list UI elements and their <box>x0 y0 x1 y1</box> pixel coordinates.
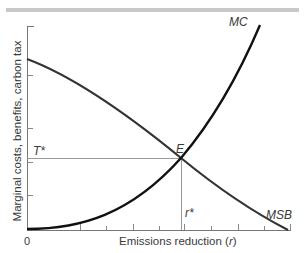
mc-label: MC <box>229 15 248 29</box>
x-ticks <box>81 224 291 230</box>
t-star-label: T* <box>33 144 45 158</box>
x-axis-title-close: ) <box>233 235 237 247</box>
msb-curve <box>27 59 288 230</box>
y-axis-title: Marginal costs, benefits, carbon tax <box>11 40 23 221</box>
x-axis-title: Emissions reduction (r) <box>119 235 237 247</box>
equilibrium-label: E <box>176 142 185 156</box>
origin-label: 0 <box>24 235 30 247</box>
x-axis-title-text: Emissions reduction ( <box>119 235 229 247</box>
mc-curve <box>27 25 260 229</box>
r-star-label: r* <box>185 206 194 220</box>
msb-label: MSB <box>266 208 292 222</box>
chart-canvas: MC MSB E T* r* 0 Emissions reduction (r)… <box>0 0 307 253</box>
axes <box>27 26 291 231</box>
